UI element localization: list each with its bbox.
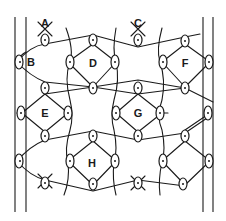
label-E: E — [41, 107, 48, 119]
diagram-canvas: A B C D E F G H — [0, 0, 226, 221]
lace-pattern-diagram: A B C D E F G H — [0, 0, 226, 221]
label-F: F — [182, 57, 189, 69]
label-B: B — [27, 56, 35, 68]
label-G: G — [134, 107, 143, 119]
label-D: D — [89, 57, 97, 69]
label-C: C — [134, 17, 142, 29]
label-A: A — [41, 17, 49, 29]
label-H: H — [88, 157, 96, 169]
row-2-top-right — [138, 88, 185, 94]
